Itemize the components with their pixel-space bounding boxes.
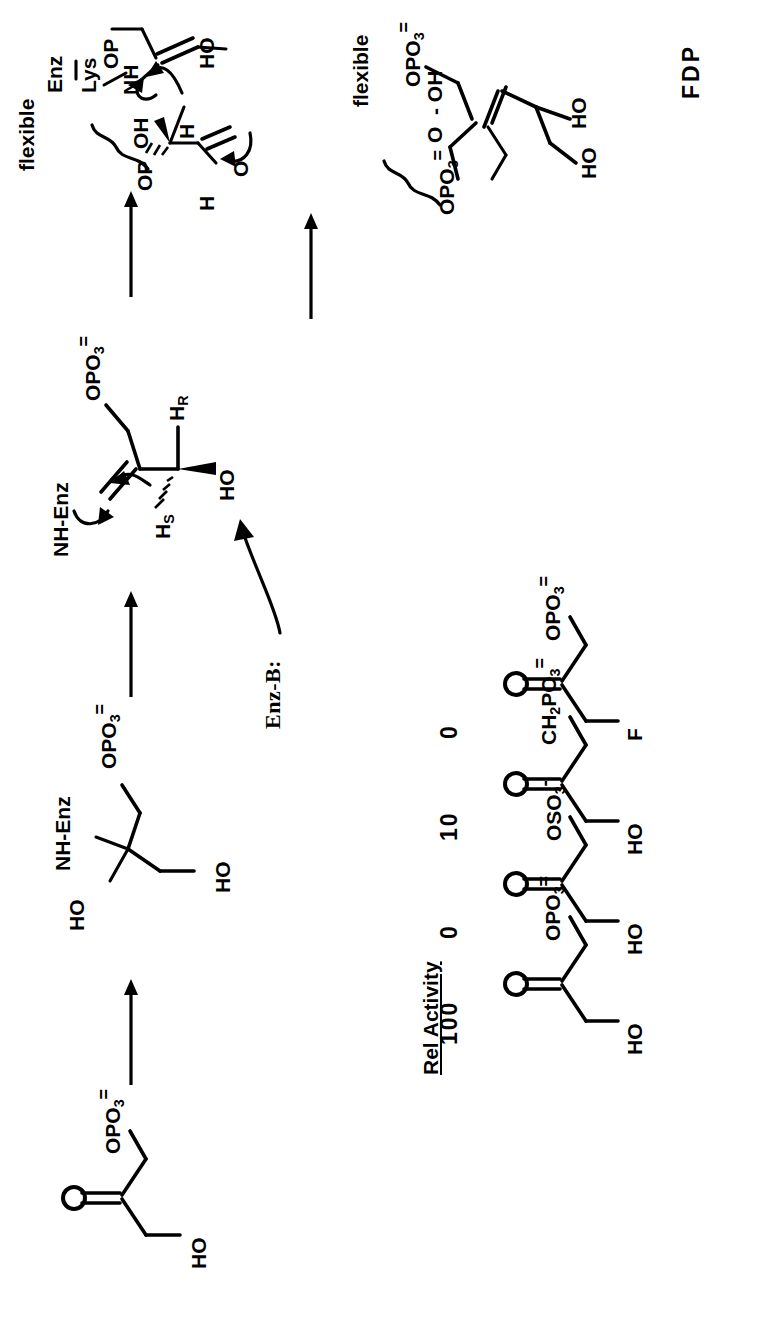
figure-canvas: OPO3= HO HO NH-Enz bbox=[0, 0, 784, 1339]
fdp-oh-label: - OH bbox=[424, 71, 445, 115]
structure-fdp: flexible OPO3= OPO3= O - OH HO HO FDP bbox=[0, 0, 784, 1339]
fdp-ho-2-label: HO bbox=[568, 98, 589, 130]
fdp-flexible-label: flexible bbox=[350, 35, 371, 107]
fdp-phosphate-top-label: OPO3= bbox=[396, 22, 426, 87]
fdp-phosphate-left-label: OPO3= bbox=[430, 150, 460, 215]
fdp-carbonyl-o-label: O bbox=[424, 127, 445, 143]
fdp-ho-1-label: HO bbox=[578, 148, 599, 180]
reaction-arrow-4 bbox=[300, 211, 322, 321]
fdp-product-label: FDP bbox=[680, 44, 703, 99]
